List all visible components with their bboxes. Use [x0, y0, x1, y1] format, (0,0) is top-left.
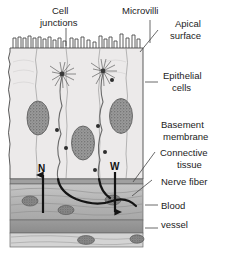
axon-varicosity — [96, 124, 100, 128]
axon-varicosity — [55, 128, 59, 132]
label-connective-tissue: Connective — [160, 147, 208, 158]
label-basement-membrane-2: membrane — [163, 131, 208, 142]
label-connective-tissue-2: tissue — [177, 159, 202, 170]
epithelial-nucleus — [27, 101, 49, 135]
axon-varicosity — [64, 146, 68, 150]
histology-diagram-svg: N W Cell junctions Microvilli — [0, 0, 226, 253]
marker-w-label: W — [110, 161, 120, 172]
label-epithelial-cells-2: cells — [172, 82, 191, 93]
basement-membrane — [10, 179, 143, 184]
label-nerve-fiber: Nerve fiber — [161, 176, 207, 187]
blood-vessel-lumen — [10, 233, 143, 247]
epithelial-nucleus — [72, 126, 95, 160]
blood-vessel-band — [10, 220, 143, 233]
label-blood-vessel: Blood — [161, 200, 185, 211]
axon-varicosity — [110, 78, 114, 82]
label-blood-vessel-2: vessel — [161, 219, 188, 230]
label-apical-surface: Apical — [175, 18, 201, 29]
label-cell-junctions-2: junctions — [39, 17, 78, 28]
histology-figure: N W Cell junctions Microvilli — [0, 0, 226, 253]
axon-varicosity — [93, 168, 97, 172]
label-cell-junctions: Cell — [52, 5, 68, 16]
label-epithelial-cells: Epithelial — [163, 70, 202, 81]
epithelial-nucleus — [110, 99, 133, 134]
axon-varicosity — [103, 150, 107, 154]
marker-n-label: N — [38, 163, 45, 174]
label-microvilli: Microvilli — [122, 5, 158, 16]
tissue-block — [9, 34, 145, 247]
label-apical-surface-2: surface — [170, 30, 201, 41]
label-basement-membrane: Basement — [161, 119, 204, 130]
